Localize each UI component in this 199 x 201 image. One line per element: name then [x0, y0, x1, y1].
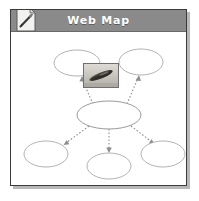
document-pencil-icon[interactable] [15, 9, 37, 33]
link-center-bottom-right [131, 126, 152, 142]
node-bottom-left[interactable] [24, 141, 68, 167]
diagram-canvas [11, 32, 186, 185]
diagram-photo-thumbnail[interactable] [83, 63, 119, 88]
arrowhead-bottom-center [106, 148, 112, 153]
page-title: Web Map [11, 10, 186, 32]
arrowhead-top-right [136, 75, 141, 81]
node-bottom-center[interactable] [87, 153, 131, 179]
link-center-top-right [127, 78, 138, 104]
web-map-window: Web Map [10, 9, 187, 186]
window-titlebar: Web Map [11, 10, 186, 32]
node-bottom-right[interactable] [141, 141, 185, 167]
node-top-right[interactable] [119, 49, 163, 75]
diagram-svg [11, 32, 186, 185]
link-center-bottom-left [66, 126, 89, 143]
node-center[interactable] [77, 101, 141, 129]
screenshot-root: Web Map [0, 0, 199, 201]
